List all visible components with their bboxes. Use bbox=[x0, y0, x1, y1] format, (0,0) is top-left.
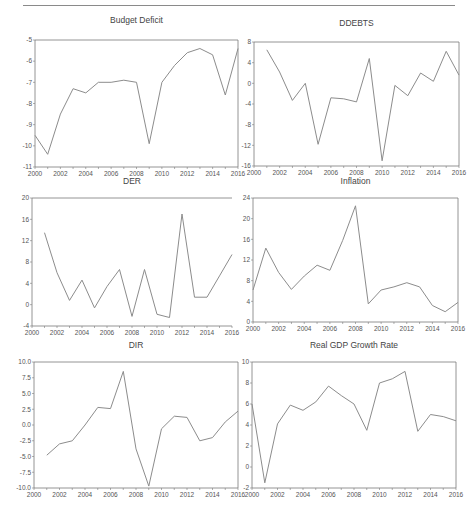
x-tick-label: 2004 bbox=[296, 491, 311, 498]
x-tick-label: 2010 bbox=[372, 491, 387, 498]
y-axis: 1086420-2 bbox=[242, 358, 252, 491]
x-tick-label: 2000 bbox=[245, 491, 260, 498]
y-tick-label: 2 bbox=[245, 442, 249, 449]
plot-frame bbox=[252, 362, 456, 488]
x-tick-label: 2002 bbox=[270, 491, 285, 498]
series-line bbox=[252, 371, 456, 482]
y-tick-label: 4 bbox=[245, 421, 249, 428]
x-tick-label: 2016 bbox=[449, 491, 464, 498]
x-tick-label: 2014 bbox=[423, 491, 438, 498]
y-tick-label: 6 bbox=[245, 400, 249, 407]
y-tick-label: 8 bbox=[245, 379, 249, 386]
y-tick-label: 10 bbox=[242, 358, 250, 365]
x-tick-label: 2006 bbox=[321, 491, 336, 498]
x-tick-label: 2012 bbox=[398, 491, 413, 498]
x-axis: 200020022004200620082010201220142016 bbox=[245, 488, 464, 498]
line-chart-real-gdp-growth-rate: 1086420-22000200220042006200820102012201… bbox=[0, 0, 476, 512]
y-tick-label: 0 bbox=[245, 463, 249, 470]
x-tick-label: 2008 bbox=[347, 491, 362, 498]
